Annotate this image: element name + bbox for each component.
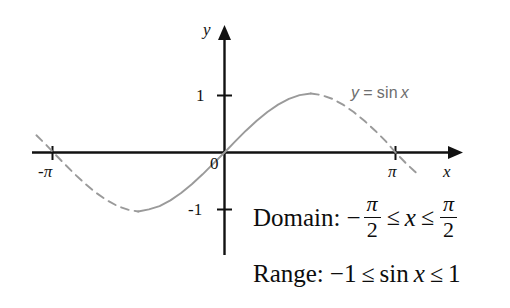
y-axis-arrowhead xyxy=(218,25,231,40)
range-variable: x xyxy=(414,261,425,286)
range-lower-bound: −1 xyxy=(330,261,357,286)
origin-label: 0 xyxy=(210,155,219,172)
range-upper-bound: 1 xyxy=(448,261,461,286)
curve-equation-sin: sin xyxy=(377,84,398,101)
sine-graph-figure: y x 1 -1 0 -π π y=sinx Domain: − π 2 ≤ x… xyxy=(0,0,510,308)
curve-equation-y: y xyxy=(351,84,359,101)
curve-equation-equals: = xyxy=(363,84,373,101)
domain-relation-right: ≤ xyxy=(421,205,434,229)
x-axis-arrowhead xyxy=(448,146,463,159)
y-axis-label: y xyxy=(203,21,211,38)
domain-variable: x xyxy=(405,205,416,230)
range-statement: Range: −1 ≤ sin x ≤ 1 xyxy=(253,261,461,286)
domain-left-numerator: π xyxy=(364,193,381,218)
y-tick-label-one: 1 xyxy=(196,87,205,104)
domain-right-numerator: π xyxy=(440,193,457,218)
sine-curve-dashed-right xyxy=(311,94,419,175)
y-tick-label-minus-one: -1 xyxy=(188,201,202,218)
curve-equation-label: y=sinx xyxy=(351,85,409,101)
range-relation-left: ≤ xyxy=(361,262,374,286)
domain-label: Domain: xyxy=(253,205,341,230)
x-axis-label: x xyxy=(443,163,451,180)
domain-left-fraction: π 2 xyxy=(364,193,381,242)
domain-relation-left: ≤ xyxy=(387,205,400,229)
domain-statement: Domain: − π 2 ≤ x ≤ π 2 xyxy=(253,193,458,242)
range-relation-right: ≤ xyxy=(430,262,443,286)
domain-right-fraction: π 2 xyxy=(440,193,457,242)
domain-left-denominator: 2 xyxy=(364,218,381,242)
domain-right-denominator: 2 xyxy=(440,218,457,242)
x-tick-label-pi: π xyxy=(388,163,397,180)
range-label: Range: xyxy=(253,261,324,286)
domain-minus-sign: − xyxy=(347,205,361,230)
x-tick-label-minus-pi: -π xyxy=(38,163,52,180)
range-function: sin xyxy=(380,261,409,286)
curve-equation-x: x xyxy=(401,84,409,101)
